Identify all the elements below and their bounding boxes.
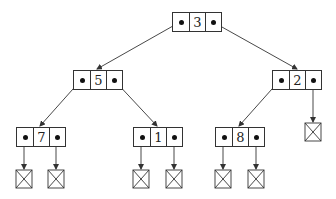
left-pointer-cell <box>173 13 189 31</box>
node-value: 1 <box>154 131 162 144</box>
null-icon <box>166 170 182 188</box>
value-cell: 7 <box>33 128 49 146</box>
pointer-dot-icon <box>172 135 177 140</box>
pointer-dot-icon <box>80 78 85 83</box>
pointer-dot-icon <box>279 78 284 83</box>
node-value: 7 <box>37 131 45 144</box>
pointer-dot-icon <box>179 20 184 25</box>
node-value: 2 <box>293 74 301 87</box>
null-icon <box>133 170 149 188</box>
null-icon <box>215 170 231 188</box>
tree-node: 8 <box>215 127 265 147</box>
pointer-dot-icon <box>23 135 28 140</box>
pointer-dot-icon <box>222 135 227 140</box>
pointer-dot-icon <box>211 20 216 25</box>
right-pointer-cell <box>49 128 65 146</box>
null-icon <box>248 170 264 188</box>
tree-node: 2 <box>272 70 322 90</box>
value-cell: 2 <box>289 71 305 89</box>
tree-node-root: 3 <box>172 12 222 32</box>
left-pointer-cell <box>273 71 289 89</box>
value-cell: 3 <box>189 13 205 31</box>
tree-edges <box>0 0 336 199</box>
tree-node: 7 <box>16 127 66 147</box>
pointer-dot-icon <box>140 135 145 140</box>
pointer-dot-icon <box>254 135 259 140</box>
right-pointer-cell <box>305 71 321 89</box>
node-value: 8 <box>236 131 244 144</box>
left-pointer-cell <box>216 128 232 146</box>
value-cell: 5 <box>90 71 106 89</box>
null-icon <box>305 123 321 141</box>
left-pointer-cell <box>17 128 33 146</box>
tree-node: 5 <box>73 70 123 90</box>
right-pointer-cell <box>106 71 122 89</box>
null-icon <box>48 170 64 188</box>
left-pointer-cell <box>134 128 150 146</box>
value-cell: 1 <box>150 128 166 146</box>
pointer-dot-icon <box>311 78 316 83</box>
pointer-dot-icon <box>55 135 60 140</box>
value-cell: 8 <box>232 128 248 146</box>
edge-3-right <box>213 22 297 69</box>
null-icon <box>16 170 32 188</box>
edge-3-left <box>97 22 180 69</box>
right-pointer-cell <box>248 128 264 146</box>
tree-node: 1 <box>133 127 183 147</box>
node-value: 3 <box>193 16 201 29</box>
pointer-dot-icon <box>112 78 117 83</box>
right-pointer-cell <box>166 128 182 146</box>
left-pointer-cell <box>74 71 90 89</box>
right-pointer-cell <box>205 13 221 31</box>
node-value: 5 <box>94 74 102 87</box>
